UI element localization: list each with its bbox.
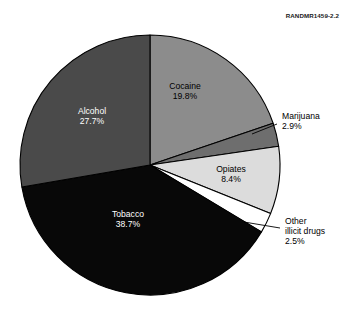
figure-root: RANDMR1459-2.2 Cocaine19.8%Marijuana2.9%…: [0, 0, 348, 316]
slice-label-marijuana: Marijuana2.9%: [282, 111, 320, 131]
pie-chart: Cocaine19.8%Marijuana2.9%Opiates8.4%Othe…: [0, 0, 348, 316]
slice-label-tobacco: Tobacco38.7%: [112, 209, 144, 229]
slice-label-alcohol: Alcohol27.7%: [78, 106, 106, 126]
slice-label-cocaine: Cocaine19.8%: [169, 81, 201, 101]
slice-label-other-illicit-drugs: Otherillicit drugs2.5%: [285, 216, 325, 247]
